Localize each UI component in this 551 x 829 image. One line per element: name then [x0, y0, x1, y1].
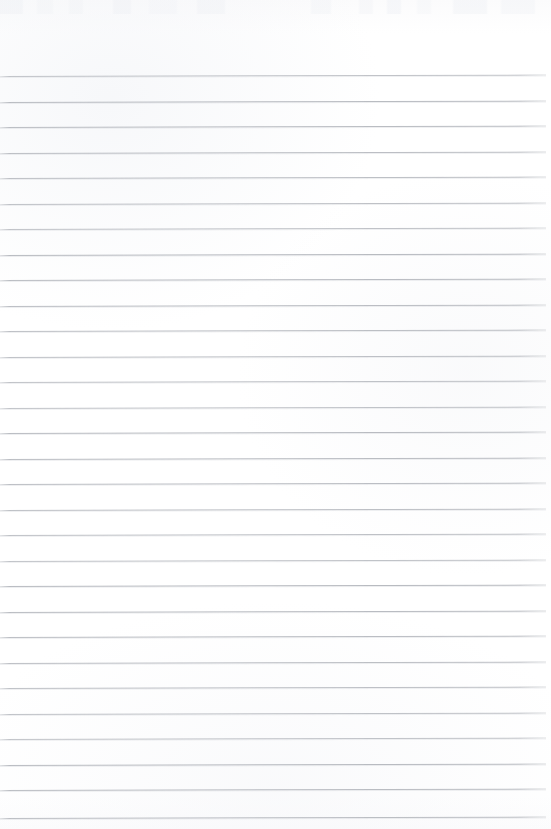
ruled-line — [0, 151, 546, 153]
ruled-line — [0, 636, 546, 638]
ruled-line — [0, 432, 546, 434]
ruled-line — [0, 508, 546, 510]
ruled-line — [0, 253, 546, 255]
ruled-line — [0, 381, 546, 383]
ruled-line — [0, 534, 546, 536]
paper-texture — [0, 0, 551, 829]
ruled-line — [0, 279, 546, 281]
ruled-line — [0, 228, 546, 230]
ruled-line — [0, 304, 546, 306]
scan-artifact-band — [0, 0, 551, 14]
ruled-line — [0, 100, 546, 102]
ruled-line — [0, 712, 546, 714]
ruled-line — [0, 330, 546, 332]
ruled-line — [0, 789, 546, 791]
ruled-line-layer — [0, 0, 551, 829]
ruled-line — [0, 483, 546, 485]
notebook-page — [0, 0, 551, 829]
ruled-line — [0, 126, 546, 128]
ruled-line — [0, 738, 546, 740]
ruled-line — [0, 687, 546, 689]
ruled-line — [0, 817, 546, 819]
ruled-line — [0, 355, 546, 357]
ruled-line — [0, 457, 546, 459]
ruled-line — [0, 610, 546, 612]
ruled-line — [0, 661, 546, 663]
ruled-line — [0, 559, 546, 561]
ruled-line — [0, 406, 546, 408]
ruled-line — [0, 202, 546, 204]
ruled-line — [0, 585, 546, 587]
ruled-line — [0, 763, 546, 765]
ruled-line — [0, 177, 546, 179]
ruled-line — [0, 75, 546, 77]
